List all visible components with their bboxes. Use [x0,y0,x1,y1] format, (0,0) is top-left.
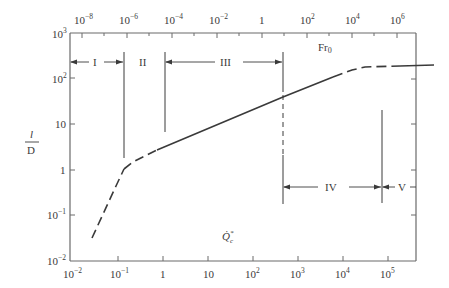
svg-text:10−1: 10−1 [110,266,129,280]
region-III-label: III [220,56,231,68]
svg-text:10−2: 10−2 [63,266,82,280]
svg-text:10: 10 [203,268,215,280]
fr0-label: Fr0 [318,41,332,55]
svg-text:102: 102 [300,12,315,26]
region-I-label: I [93,56,97,68]
svg-text:1: 1 [160,268,166,280]
svg-text:105: 105 [380,266,395,280]
flame-height-chart: 10−2 10−1 1 10 102 103 104 105 103 102 1… [0,0,449,288]
right-ticks [411,79,416,215]
svg-text:1: 1 [259,14,265,26]
curve-segment-3-solid [157,77,333,150]
svg-text:106: 106 [390,12,405,26]
svg-text:D: D [27,144,35,156]
region-II-label: II [139,56,147,68]
svg-text:104: 104 [345,12,360,26]
left-ticks [70,78,75,215]
y-axis-title: l D [25,128,39,156]
curve-segment-4-dashed [333,66,400,77]
region-boundaries [124,52,382,204]
svg-text:10−1: 10−1 [47,207,66,221]
svg-text:10−2: 10−2 [209,12,228,26]
region-V-label: V [398,181,406,193]
svg-text:102: 102 [52,71,67,85]
left-tick-labels: 103 102 10 1 10−1 10−2 [47,26,67,267]
curve-segment-1-dashed [92,169,124,238]
svg-text:103: 103 [290,266,305,280]
top-ticks [82,33,397,38]
bottom-ticks [118,256,388,261]
region-IV-label: IV [325,181,337,193]
curve-segment-5-solid [400,65,434,66]
svg-text:104: 104 [335,266,350,280]
svg-text:10−6: 10−6 [119,12,138,26]
bottom-tick-labels: 10−2 10−1 1 10 102 103 104 105 [63,266,395,280]
qc-star-label: Q̇c* [222,229,234,245]
svg-text:l: l [30,128,33,140]
svg-text:102: 102 [245,266,260,280]
svg-text:10: 10 [55,118,67,130]
svg-text:10−2: 10−2 [47,253,66,267]
region-labels: I II III IV V [93,56,406,193]
svg-text:1: 1 [60,164,66,176]
top-tick-labels: 10−8 10−6 10−4 10−2 1 102 104 106 [74,12,405,26]
svg-text:103: 103 [52,26,67,40]
svg-text:10−8: 10−8 [74,12,93,26]
region-arrows [71,62,416,187]
svg-text:10−4: 10−4 [164,12,183,26]
curve-segment-2-dashed [124,150,157,169]
data-curve [92,65,434,238]
